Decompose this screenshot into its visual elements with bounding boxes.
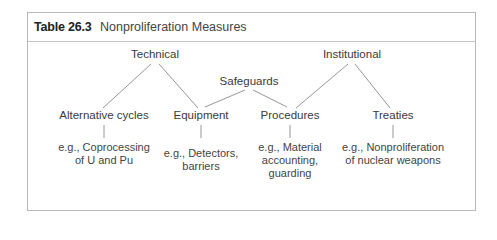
node-technical: Technical <box>131 48 179 60</box>
example-treaties: e.g., Nonproliferation of nuclear weapon… <box>342 141 444 167</box>
node-safeguards: Safeguards <box>220 75 279 87</box>
edge-institutional-treaties <box>355 64 390 108</box>
edge-institutional-procedures <box>296 64 348 108</box>
edge-technical-equipment <box>159 64 198 108</box>
example-equipment: e.g., Detectors, barriers <box>164 147 239 173</box>
edge-technical-alternative <box>103 64 151 108</box>
edge-safeguards-equipment <box>205 90 245 107</box>
node-equipment: Equipment <box>174 109 229 121</box>
node-treaties: Treaties <box>372 109 413 121</box>
node-procedures: Procedures <box>261 109 320 121</box>
edge-safeguards-procedures <box>253 90 287 107</box>
example-alternative-cycles: e.g., Coprocessing of U and Pu <box>58 141 150 167</box>
node-alternative-cycles: Alternative cycles <box>59 109 148 121</box>
example-procedures: e.g., Material accounting, guarding <box>258 141 322 180</box>
node-institutional: Institutional <box>323 48 381 60</box>
